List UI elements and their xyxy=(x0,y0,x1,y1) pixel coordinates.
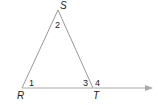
side-rs xyxy=(22,10,58,88)
triangle-diagram: S 2 R 1 3 4 T xyxy=(0,0,158,105)
angle-label-3: 3 xyxy=(83,78,88,88)
vertex-label-r: R xyxy=(17,90,24,101)
angle-label-4: 4 xyxy=(95,78,100,88)
vertex-label-s: S xyxy=(60,0,67,11)
angle-label-2: 2 xyxy=(55,20,60,30)
side-st xyxy=(58,10,93,88)
angle-label-1: 1 xyxy=(29,78,34,88)
vertex-label-t: T xyxy=(93,90,100,101)
